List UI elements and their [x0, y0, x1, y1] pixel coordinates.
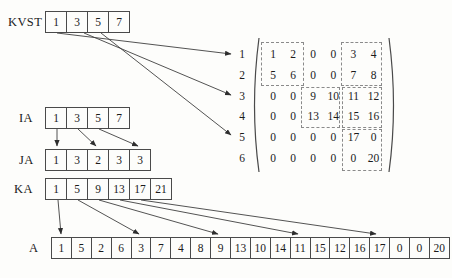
- dashed-block-rows34-cols34: [301, 87, 340, 128]
- a-cell: 17: [369, 237, 390, 259]
- a-cell: 2: [91, 237, 112, 259]
- arrow-kvst-to-row-1: [57, 33, 231, 54]
- a-cell: 6: [111, 237, 132, 259]
- matrix-cell: 0: [303, 147, 323, 168]
- arrow-ka-to-a-9: [99, 200, 218, 234]
- ia-cell: 1: [45, 107, 67, 129]
- arrow-ia-to-ja-5: [99, 129, 138, 146]
- a-cell: 15: [310, 237, 331, 259]
- a-cell: 7: [150, 237, 171, 259]
- matrix-cell: 0: [263, 147, 283, 168]
- a-cell: 13: [230, 237, 251, 259]
- a-cell: 9: [210, 237, 231, 259]
- ja-cell: 3: [108, 149, 130, 171]
- matrix-cell: 0: [263, 85, 283, 106]
- a-cell: 0: [409, 237, 430, 259]
- ja-cell: 3: [66, 149, 88, 171]
- ka-cell: 9: [87, 178, 109, 200]
- kvst-cell: 1: [45, 11, 67, 33]
- a-cell: 3: [131, 237, 152, 259]
- a-cell: 0: [389, 237, 410, 259]
- ia-cell: 7: [108, 107, 130, 129]
- matrix-row-label: 4: [234, 106, 250, 127]
- ja-cell: 1: [45, 149, 67, 171]
- ja-array: 13233: [46, 149, 151, 171]
- ka-cell: 13: [108, 178, 130, 200]
- matrix-row-label: 5: [234, 127, 250, 148]
- a-cell: 20: [429, 237, 450, 259]
- a-cell: 10: [250, 237, 271, 259]
- ia-label: IA: [19, 111, 33, 125]
- matrix-row-labels: 123456: [234, 44, 250, 168]
- a-label: A: [29, 241, 38, 255]
- matrix-cell: 0: [303, 44, 323, 65]
- kvst-cell: 5: [87, 11, 109, 33]
- matrix-cell: 0: [283, 147, 303, 168]
- matrix-cell: 0: [283, 127, 303, 148]
- arrow-ka-to-a-5: [78, 200, 139, 234]
- arrow-kvst-to-row-3: [84, 33, 231, 95]
- dashed-block-rows12-cols12: [261, 42, 304, 86]
- ka-array: 159131721: [46, 178, 172, 200]
- arrow-ka-to-a-1: [58, 200, 61, 234]
- matrix-row-label: 6: [234, 147, 250, 168]
- a-cell: 5: [71, 237, 92, 259]
- dashed-block-rows12-cols56: [341, 42, 382, 86]
- matrix-cell: 0: [323, 127, 343, 148]
- a-cell: 4: [170, 237, 191, 259]
- matrix-cell: 0: [303, 65, 323, 86]
- ja-label: JA: [19, 153, 34, 167]
- matrix-left-paren: [255, 38, 260, 172]
- ja-cell: 2: [87, 149, 109, 171]
- a-cell: 8: [190, 237, 211, 259]
- a-cell: 16: [349, 237, 370, 259]
- a-array: 15263748913101411151216170020: [52, 237, 450, 259]
- ia-array: 1357: [46, 107, 130, 129]
- kvst-cell: 7: [108, 11, 130, 33]
- dashed-block-rows56-cols56: [342, 129, 382, 171]
- a-cell: 1: [51, 237, 72, 259]
- ka-cell: 1: [45, 178, 67, 200]
- ia-cell: 3: [66, 107, 88, 129]
- ka-cell: 17: [129, 178, 151, 200]
- arrow-ka-to-a-17: [141, 200, 376, 234]
- a-cell: 14: [270, 237, 291, 259]
- a-cell: 11: [290, 237, 311, 259]
- matrix-right-paren: [389, 38, 394, 172]
- vbr-sparse-matrix-diagram: KVST 1357 IA 1357 JA 13233 KA 159131721 …: [0, 0, 452, 278]
- arrow-ka-to-a-13: [120, 200, 298, 234]
- matrix-cell: 0: [263, 106, 283, 127]
- ia-cell: 5: [87, 107, 109, 129]
- ja-cell: 3: [129, 149, 151, 171]
- ka-cell: 5: [66, 178, 88, 200]
- matrix-cell: 0: [263, 127, 283, 148]
- matrix-cell: 0: [303, 127, 323, 148]
- dashed-block-rows34-cols56: [342, 87, 382, 128]
- kvst-label: KVST: [8, 15, 42, 29]
- a-cell: 12: [329, 237, 350, 259]
- kvst-array: 1357: [46, 11, 130, 33]
- matrix-cell: 0: [323, 147, 343, 168]
- kvst-cell: 3: [66, 11, 88, 33]
- matrix-row-label: 1: [234, 44, 250, 65]
- matrix-row-label: 3: [234, 85, 250, 106]
- ka-cell: 21: [150, 178, 172, 200]
- arrow-ia-to-ja-3: [78, 129, 96, 146]
- matrix-row-label: 2: [234, 65, 250, 86]
- ka-label: KA: [14, 182, 33, 196]
